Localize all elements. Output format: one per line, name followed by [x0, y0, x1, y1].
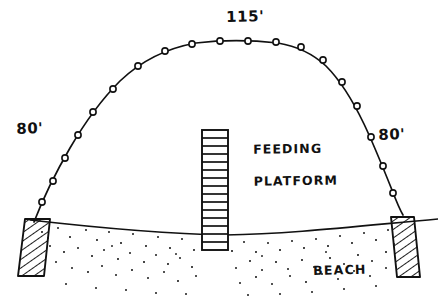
cable-node: [110, 86, 116, 92]
cable-node: [320, 57, 326, 63]
cable-node: [90, 109, 96, 115]
cable-node: [298, 44, 304, 50]
cable-node: [75, 132, 81, 138]
anchor-block-right: [391, 217, 420, 277]
cable-node: [390, 190, 396, 196]
label-height-left: 80': [16, 119, 44, 139]
anchor-block-left: [18, 219, 50, 276]
cable-node: [368, 134, 374, 140]
cable-node: [189, 41, 195, 47]
feeding-platform-ladder: [202, 130, 228, 250]
cable-node: [50, 178, 56, 184]
cable-node: [339, 79, 345, 85]
label-span-top: 115': [226, 7, 264, 27]
cable-node: [162, 48, 168, 54]
cable-node: [273, 39, 279, 45]
cable-node: [217, 38, 223, 44]
cable-node: [354, 103, 360, 109]
cable-node: [135, 63, 141, 69]
feeding-platform-line1: FEEDING: [253, 141, 322, 157]
cable-node: [62, 155, 68, 161]
feeding-platform-line2: PLATFORM: [253, 173, 338, 189]
diagram-svg: [0, 0, 438, 302]
diagram-canvas: 115' 80' 80' FEEDING PLATFORM BEACH: [0, 0, 438, 302]
label-height-right: 80': [378, 125, 406, 145]
ground-line: [30, 219, 438, 235]
cable-node: [39, 199, 45, 205]
cable-node: [380, 163, 386, 169]
label-beach: BEACH: [313, 262, 367, 279]
label-feeding-platform: FEEDING PLATFORM: [231, 125, 338, 206]
cable-node: [245, 38, 251, 44]
